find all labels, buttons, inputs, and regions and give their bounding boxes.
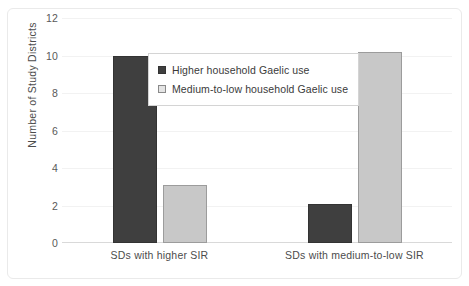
legend-label: Higher household Gaelic use (172, 64, 310, 76)
dark-square-icon (158, 66, 166, 74)
y-axis-ticks: 12 10 8 6 4 2 0 (18, 18, 58, 243)
legend-entry-medium-to-low: Medium-to-low household Gaelic use (158, 81, 349, 97)
bar-chart-figure: Number of Study Districts 12 10 8 6 4 2 … (0, 0, 469, 286)
y-tick-label: 6 (22, 125, 58, 137)
x-tick-label: SDs with higher SIR (111, 249, 209, 261)
y-tick-label: 8 (22, 87, 58, 99)
x-tick-label: SDs with medium-to-low SIR (285, 249, 424, 261)
gridline (62, 18, 452, 19)
y-tick-label: 10 (22, 50, 58, 62)
light-square-icon (158, 85, 166, 93)
legend-label: Medium-to-low household Gaelic use (172, 83, 348, 95)
y-tick-label: 0 (22, 237, 58, 249)
y-tick-label: 12 (22, 12, 58, 24)
y-tick-label: 4 (22, 162, 58, 174)
bar-group2-series2 (358, 52, 402, 243)
legend: Higher household Gaelic use Medium-to-lo… (148, 53, 359, 106)
bar-group2-series1 (308, 204, 352, 243)
plot-area (62, 18, 452, 243)
y-tick-label: 2 (22, 200, 58, 212)
legend-entry-higher: Higher household Gaelic use (158, 62, 349, 78)
x-axis-ticks: SDs with higher SIR SDs with medium-to-l… (62, 249, 452, 269)
bar-group1-series2 (163, 185, 207, 243)
